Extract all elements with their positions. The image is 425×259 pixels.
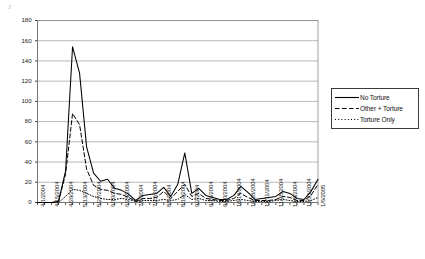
- x-axis-tick-label: 4/29/2004: [68, 181, 74, 206]
- series-line-other-torture: [38, 114, 319, 203]
- x-axis-tick-label: 12/23/2004: [306, 178, 312, 207]
- x-axis-tick-label: 7/22/2004: [152, 181, 158, 206]
- x-axis-tick-label: 11/11/2004: [264, 179, 270, 207]
- x-axis-tick-label: 6/10/2004: [110, 181, 116, 206]
- legend-swatch-solid: [334, 93, 360, 102]
- legend-label-other-plus-torture: Other + Torture: [360, 105, 403, 112]
- x-axis-tick-label: 9/16/2004: [208, 181, 214, 206]
- x-axis-tick-label: 4/1/2004: [40, 184, 46, 206]
- data-series-layer: [38, 47, 319, 203]
- x-axis-tick-label: 8/5/2004: [166, 184, 172, 206]
- y-gridlines: [35, 21, 318, 203]
- x-axis-tick-label: 8/19/2004: [180, 181, 186, 206]
- legend-swatch-dotted: [334, 115, 360, 124]
- legend-label-no-torture: No Torture: [360, 94, 390, 101]
- legend-item-other-plus-torture: Other + Torture: [334, 103, 415, 114]
- series-line-no-torture: [38, 47, 319, 203]
- x-axis-tick-label: 4/15/2004: [54, 181, 60, 206]
- legend-item-torture-only: Torture Only: [334, 114, 415, 125]
- legend: No Torture Other + Torture Torture Only: [331, 88, 419, 129]
- x-axis-tick-label: 1/6/2005: [320, 184, 326, 206]
- x-axis-tick-label: 11/25/2004: [278, 178, 284, 206]
- x-axis-tick-label: 5/27/2004: [96, 181, 102, 206]
- x-axis-tick-label: 10/14/2004: [236, 178, 242, 207]
- plot-frame: [38, 21, 319, 203]
- legend-item-no-torture: No Torture: [334, 92, 415, 103]
- x-axis-tick-label: 6/24/2004: [124, 181, 130, 206]
- plot-area: [0, 0, 425, 259]
- legend-swatch-dashed: [334, 104, 360, 113]
- x-axis-tick-label: 7/8/2004: [138, 184, 144, 206]
- x-axis-tick-label: 5/13/2004: [82, 181, 88, 206]
- line-chart: z 020406080100120140160180 4/1/20044/15/…: [0, 0, 425, 259]
- x-axis-tick-label: 9/2/2004: [194, 184, 200, 206]
- x-axis-tick-label: 9/30/2004: [222, 181, 228, 206]
- legend-label-torture-only: Torture Only: [360, 116, 395, 123]
- x-axis-tick-label: 12/9/2004: [292, 181, 298, 206]
- x-axis-tick-label: 10/28/2004: [250, 178, 256, 207]
